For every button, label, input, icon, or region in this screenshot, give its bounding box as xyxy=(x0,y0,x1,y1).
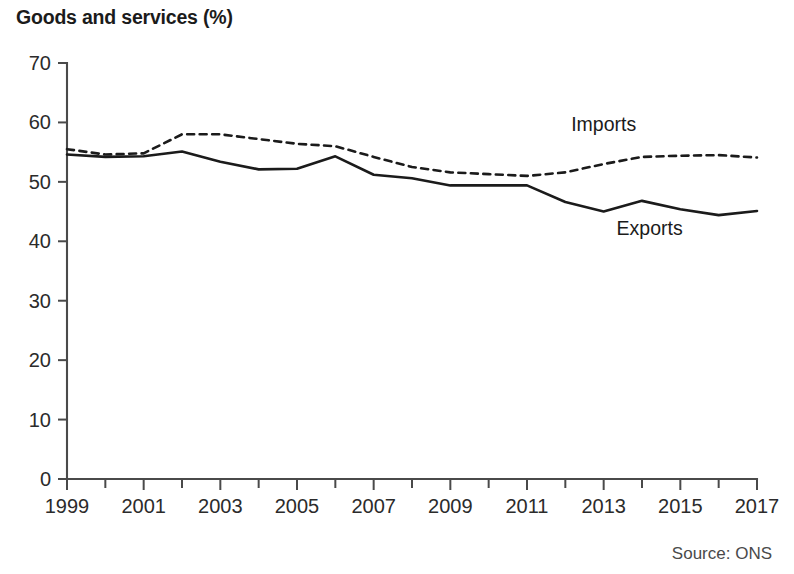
x-tick-label: 2013 xyxy=(581,495,626,517)
x-tick-label: 2007 xyxy=(351,495,396,517)
x-tick-label: 2001 xyxy=(121,495,166,517)
x-tick-label: 2015 xyxy=(658,495,703,517)
source-note: Source: ONS xyxy=(672,544,772,564)
x-axis-tick-labels: 1999200120032005200720092011201320152017 xyxy=(45,495,780,517)
y-tick-label: 50 xyxy=(29,171,51,193)
y-tick-label: 70 xyxy=(29,52,51,74)
series-label-exports: Exports xyxy=(617,217,683,239)
y-axis-tick-labels: 010203040506070 xyxy=(29,52,51,490)
x-tick-label: 2003 xyxy=(198,495,243,517)
series-line-imports xyxy=(67,134,757,176)
line-chart-plot: 010203040506070 199920012003200520072009… xyxy=(0,0,794,574)
x-tick-label: 2009 xyxy=(428,495,473,517)
x-tick-label: 2005 xyxy=(275,495,320,517)
y-tick-label: 10 xyxy=(29,409,51,431)
chart-figure: Goods and services (%) 010203040506070 1… xyxy=(0,0,794,574)
series-line-exports xyxy=(67,152,757,216)
y-tick-label: 30 xyxy=(29,290,51,312)
y-tick-label: 60 xyxy=(29,111,51,133)
series-annotations: ImportsExports xyxy=(571,113,683,240)
y-tick-label: 0 xyxy=(40,468,51,490)
y-tick-label: 20 xyxy=(29,349,51,371)
data-series-group xyxy=(67,134,757,215)
x-tick-label: 2017 xyxy=(735,495,780,517)
x-tick-label: 2011 xyxy=(505,495,548,517)
x-tick-label: 1999 xyxy=(45,495,90,517)
x-axis-tick-marks xyxy=(67,479,757,490)
y-axis-tick-marks xyxy=(58,63,67,479)
series-label-imports: Imports xyxy=(571,113,636,135)
y-tick-label: 40 xyxy=(29,230,51,252)
